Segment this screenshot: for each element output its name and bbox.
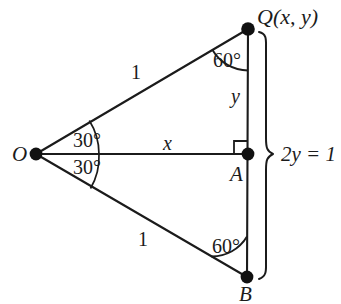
vertex-dot-O [30,148,43,161]
segment-length-label-OB: 1 [138,229,148,249]
vertex-dot-Q [241,22,255,36]
segment-OB [36,154,247,277]
vertex-label-O: O [12,144,27,165]
vertex-dot-A [242,148,255,161]
vertex-label-A: A [230,164,243,185]
segment-label-x: x [163,133,172,153]
brace-label: 2y = 1 [281,144,336,165]
angle-label-b: 60° [212,236,240,256]
segment-label-y: y [231,86,240,106]
segment-OQ [36,29,248,154]
angle-label-q: 60° [213,50,241,70]
vertex-label-Q: Q(x, y) [257,6,318,28]
geometry-figure: O A B Q(x, y) 1 1 x y 30° 30° 60° 60° 2y… [0,0,341,304]
curly-brace-icon [259,32,273,279]
angle-label-o-upper: 30° [73,130,101,150]
vertex-label-B: B [239,284,252,304]
segment-length-label-OQ: 1 [131,62,141,82]
angle-label-o-lower: 30° [73,157,101,177]
